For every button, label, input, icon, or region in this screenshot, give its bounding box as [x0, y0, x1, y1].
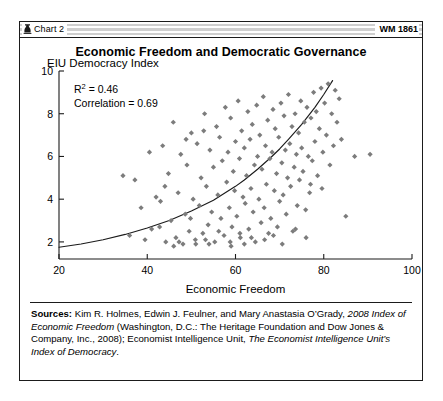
- y-axis-tick-label: 2: [47, 236, 53, 248]
- data-point-marker: [352, 154, 357, 159]
- sources-segment-1: Kim R. Holmes, Edwin J. Feulner, and Mar…: [72, 308, 347, 319]
- data-point-marker: [163, 239, 168, 244]
- data-point-marker: [322, 100, 327, 105]
- data-point-marker: [206, 222, 211, 227]
- data-point-marker: [242, 241, 247, 246]
- data-point-marker: [343, 214, 348, 219]
- data-point-marker: [299, 145, 304, 150]
- statistics-annotation-group: R2 = 0.46Correlation = 0.69: [74, 82, 158, 109]
- plot-area: 24681020406080100EIU Democracy IndexEcon…: [20, 59, 424, 302]
- data-point-marker: [138, 205, 143, 210]
- data-point-marker: [275, 224, 280, 229]
- data-point-marker: [171, 244, 176, 249]
- data-point-marker: [272, 188, 277, 193]
- data-point-marker: [223, 105, 228, 110]
- y-axis-tick-label: 8: [47, 108, 53, 120]
- data-point-marker: [306, 154, 311, 159]
- data-point-marker: [334, 120, 339, 125]
- data-point-marker: [176, 190, 181, 195]
- data-point-marker: [300, 169, 305, 174]
- sources-segment-3: .: [116, 346, 119, 357]
- data-point-marker: [274, 171, 279, 176]
- data-point-marker: [308, 115, 313, 120]
- x-axis-tick-label: 100: [403, 264, 421, 276]
- r-squared-annotation: R2 = 0.46: [74, 82, 118, 95]
- data-point-marker: [279, 160, 284, 165]
- data-point-marker: [202, 111, 207, 116]
- data-point-marker: [193, 241, 198, 246]
- data-point-marker: [297, 177, 302, 182]
- data-point-marker: [310, 158, 315, 163]
- data-point-marker: [147, 150, 152, 155]
- chart-card: Chart 2 WM 1861 Economic Freedom and Dem…: [19, 21, 423, 381]
- data-point-marker: [273, 126, 278, 131]
- data-point-marker: [294, 152, 299, 157]
- data-point-marker: [263, 143, 268, 148]
- data-point-marker: [158, 199, 163, 204]
- data-point-marker: [266, 231, 271, 236]
- data-point-marker: [227, 205, 232, 210]
- data-point-marker: [276, 135, 281, 140]
- data-point-marker: [311, 90, 316, 95]
- data-point-marker: [228, 244, 233, 249]
- data-point-marker: [193, 237, 198, 242]
- data-point-marker: [261, 94, 266, 99]
- data-point-marker: [240, 194, 245, 199]
- data-point-marker: [251, 209, 256, 214]
- data-point-marker: [233, 139, 238, 144]
- data-point-marker: [191, 197, 196, 202]
- data-point-marker: [286, 92, 291, 97]
- data-point-marker: [264, 182, 269, 187]
- data-point-marker: [221, 233, 226, 238]
- data-point-marker: [292, 111, 297, 116]
- data-point-marker: [265, 118, 270, 123]
- x-axis-tick-label: 40: [141, 264, 153, 276]
- data-point-marker: [160, 143, 165, 148]
- data-point-marker: [229, 224, 234, 229]
- data-point-marker: [331, 143, 336, 148]
- x-axis-tick-label: 80: [318, 264, 330, 276]
- data-point-marker: [281, 192, 286, 197]
- data-point-marker: [304, 105, 309, 110]
- data-point-marker: [184, 162, 189, 167]
- data-point-marker: [232, 188, 237, 193]
- x-axis-tick-label: 20: [53, 264, 65, 276]
- data-point-marker: [203, 237, 208, 242]
- data-point-marker: [247, 137, 252, 142]
- data-point-marker: [245, 109, 250, 114]
- data-point-marker: [289, 124, 294, 129]
- data-point-marker: [271, 233, 276, 238]
- data-point-marker: [292, 165, 297, 170]
- data-point-marker: [187, 229, 192, 234]
- data-point-marker: [228, 239, 233, 244]
- data-point-marker: [206, 241, 211, 246]
- data-point-marker: [225, 150, 230, 155]
- screenshot-root: Chart 2 WM 1861 Economic Freedom and Dem…: [0, 0, 443, 401]
- data-point-marker: [314, 109, 319, 114]
- data-point-marker: [315, 173, 320, 178]
- y-axis-tick-label: 4: [47, 193, 53, 205]
- data-point-marker: [288, 184, 293, 189]
- data-point-marker: [120, 173, 125, 178]
- data-point-marker: [244, 173, 249, 178]
- data-point-marker: [216, 229, 221, 234]
- data-point-marker: [319, 85, 324, 90]
- data-point-marker: [281, 113, 286, 118]
- data-point-marker: [200, 231, 205, 236]
- data-point-marker: [243, 201, 248, 206]
- data-points-group: [120, 81, 372, 249]
- data-point-marker: [236, 98, 241, 103]
- data-point-marker: [238, 235, 243, 240]
- data-point-marker: [285, 175, 290, 180]
- correlation-annotation: Correlation = 0.69: [74, 97, 158, 109]
- data-point-marker: [209, 209, 214, 214]
- page-title: Economic Freedom and Democratic Governan…: [20, 45, 422, 59]
- data-point-marker: [189, 130, 194, 135]
- data-point-marker: [329, 111, 334, 116]
- data-point-marker: [255, 154, 260, 159]
- data-point-marker: [262, 237, 267, 242]
- chart-number-tag: Chart 2: [22, 22, 67, 36]
- data-point-marker: [258, 220, 263, 225]
- data-point-marker: [142, 237, 147, 242]
- data-point-marker: [298, 98, 303, 103]
